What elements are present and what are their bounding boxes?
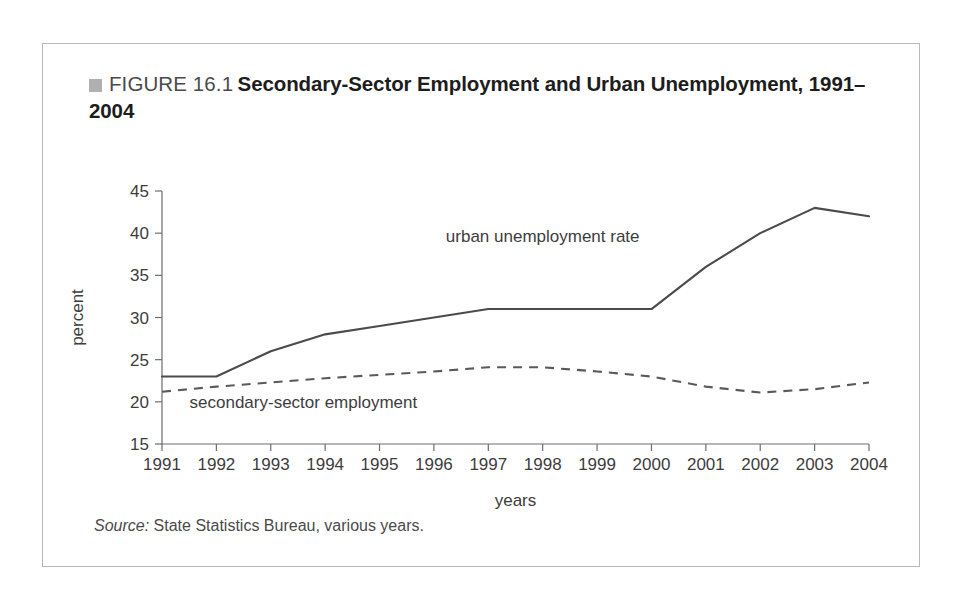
annotation-urban-unemployment-rate: urban unemployment rate bbox=[446, 227, 640, 246]
y-tick-label: 15 bbox=[130, 435, 149, 454]
source-note: Source: State Statistics Bureau, various… bbox=[94, 517, 424, 535]
x-tick-label: 2001 bbox=[687, 455, 725, 474]
x-tick-label: 2002 bbox=[741, 455, 779, 474]
x-tick-label: 2004 bbox=[850, 455, 888, 474]
x-tick-label: 1993 bbox=[252, 455, 290, 474]
line-chart: 15202530354045 1991199219931994199519961… bbox=[43, 44, 921, 568]
chart-area: 15202530354045 1991199219931994199519961… bbox=[43, 44, 921, 568]
source-text: State Statistics Bureau, various years. bbox=[154, 517, 424, 534]
y-tick-label: 20 bbox=[130, 393, 149, 412]
y-tick-label: 35 bbox=[130, 266, 149, 285]
series-secondary-sector-employment bbox=[162, 367, 869, 392]
y-tick-label: 30 bbox=[130, 309, 149, 328]
source-label: Source: bbox=[94, 517, 149, 534]
x-tick-label: 1992 bbox=[197, 455, 235, 474]
x-axis-tick-labels: 1991199219931994199519961997199819992000… bbox=[143, 455, 888, 474]
y-tick-label: 45 bbox=[130, 182, 149, 201]
y-tick-label: 40 bbox=[130, 224, 149, 243]
x-axis-title: years bbox=[495, 491, 537, 510]
x-axis-tick-marks bbox=[162, 444, 869, 451]
x-tick-label: 1999 bbox=[578, 455, 616, 474]
x-tick-label: 1997 bbox=[469, 455, 507, 474]
y-axis-tick-marks bbox=[155, 191, 162, 444]
figure-frame: FIGURE 16.1 Secondary-Sector Employment … bbox=[42, 43, 920, 567]
y-axis-title: percent bbox=[68, 289, 87, 346]
x-tick-label: 1996 bbox=[415, 455, 453, 474]
y-axis-tick-labels: 15202530354045 bbox=[130, 182, 149, 454]
x-tick-label: 2003 bbox=[796, 455, 834, 474]
x-tick-label: 2000 bbox=[633, 455, 671, 474]
x-tick-label: 1995 bbox=[361, 455, 399, 474]
x-tick-label: 1991 bbox=[143, 455, 181, 474]
x-tick-label: 1994 bbox=[306, 455, 344, 474]
y-tick-label: 25 bbox=[130, 351, 149, 370]
annotation-secondary-sector-employment: secondary-sector employment bbox=[190, 393, 418, 412]
x-tick-label: 1998 bbox=[524, 455, 562, 474]
